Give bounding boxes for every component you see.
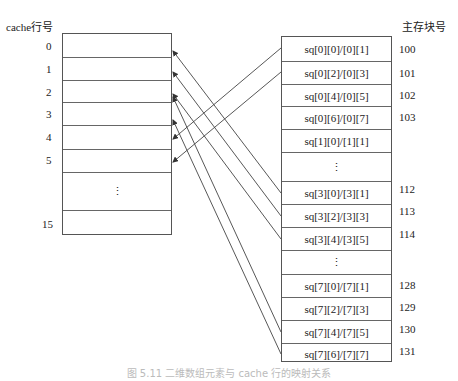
arrow-130-to-line2	[173, 97, 281, 332]
figure-caption: 图 5.11 二维数组元素与 cache 行的映射关系	[0, 365, 458, 380]
arrow-112-to-line0	[173, 51, 281, 193]
arrow-114-to-line2	[173, 94, 281, 239]
mapping-arrows	[0, 0, 458, 381]
arrow-131-to-line3	[173, 120, 281, 354]
arrow-101-to-line5	[173, 72, 281, 162]
